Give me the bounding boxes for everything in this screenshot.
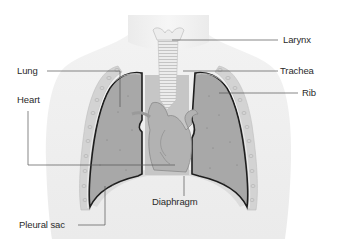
label-diaphragm: Diaphragm	[152, 197, 198, 207]
label-pleural-sac: Pleural sac	[19, 220, 65, 230]
larynx	[153, 28, 184, 40]
label-heart: Heart	[17, 95, 40, 105]
label-trachea: Trachea	[280, 66, 314, 76]
label-rib: Rib	[302, 88, 316, 98]
label-lung: Lung	[17, 66, 38, 76]
label-larynx: Larynx	[283, 35, 311, 45]
